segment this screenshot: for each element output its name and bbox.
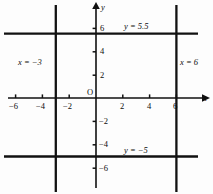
- x-tick-label-neg6: −6: [9, 102, 18, 111]
- axes-group: [8, 2, 210, 188]
- y-tick-label-neg4: −4: [99, 140, 108, 149]
- y-tick-label-neg6: −6: [99, 164, 108, 173]
- y-tick-label-pos2: 2: [100, 71, 104, 80]
- line-label-y-equals-5point5: y = 5.5: [124, 22, 148, 31]
- y-tick-label-pos4: 4: [100, 47, 104, 56]
- y-axis-arrowhead: [92, 2, 100, 9]
- x-tick-label-neg2: −2: [63, 102, 72, 111]
- x-tick-label-neg4: −4: [36, 102, 45, 111]
- line-label-y-equals-neg5: y = −5: [124, 146, 148, 155]
- y-tick-label-neg2: −2: [99, 117, 108, 126]
- x-axis-label: x: [203, 94, 207, 103]
- origin-label: O: [87, 88, 93, 97]
- x-tick-label-pos4: 4: [147, 102, 151, 111]
- x-tick-label-pos6: 6: [173, 102, 177, 111]
- x-tick-label-pos2: 2: [120, 102, 124, 111]
- y-tick-label-pos6: 6: [100, 24, 104, 33]
- line-label-x-equals-6: x = 6: [180, 58, 198, 67]
- coordinate-graph-figure: y x O −6 −4 −2 2 4 6 6 4 2 −2 −4 −6 x = …: [0, 0, 213, 194]
- line-label-x-equals-neg3: x = −3: [18, 58, 42, 67]
- y-axis-label: y: [101, 3, 105, 12]
